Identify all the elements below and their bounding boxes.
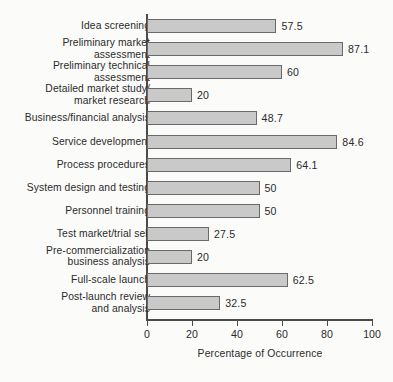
x-axis-title: Percentage of Occurrence [147,348,373,360]
bar-value-label: 60 [287,66,299,78]
bar-value-label: 48.7 [262,112,283,124]
bar-value-label: 50 [265,182,277,194]
x-axis-line [146,319,373,321]
chart-figure: Idea screening57.5Preliminary market ass… [0,0,393,382]
bar-value-label: 84.6 [342,136,363,148]
x-tick-label: 100 [363,328,381,340]
x-tick-mark [192,321,193,326]
category-label: Preliminary market assessment [4,37,150,60]
bar [147,135,337,149]
bar-value-label: 27.5 [214,228,235,240]
category-label: Process procedures [4,159,150,170]
category-label: Preliminary technical assessment [4,60,150,83]
bar-value-label: 32.5 [225,297,246,309]
bar-row: Business/financial analysis48.7 [0,111,393,125]
bar [147,88,192,102]
bar [147,296,220,310]
bar-value-label: 57.5 [281,20,302,32]
category-label: Full-scale launch [4,274,150,285]
bar [147,65,282,79]
category-label: Personnel training [4,205,150,216]
bar-row: Full-scale launch62.5 [0,273,393,287]
bar-row: Preliminary market assessment87.1 [0,42,393,56]
bar-row: System design and testing50 [0,181,393,195]
x-tick-mark [372,321,373,326]
x-tick-mark [147,321,148,326]
bar-row: Idea screening57.5 [0,19,393,33]
x-tick-label: 60 [276,328,288,340]
category-label: Idea screening [4,20,150,31]
chart-plot-area: Idea screening57.5Preliminary market ass… [0,0,393,382]
category-label: Pre-commercialization business analysis [4,245,150,268]
category-label: Detailed market study/ market research [4,83,150,106]
x-tick-mark [327,321,328,326]
bar-row: Process procedures64.1 [0,158,393,172]
bar-row: Preliminary technical assessment60 [0,65,393,79]
bar-value-label: 62.5 [293,274,314,286]
bar-value-label: 50 [265,205,277,217]
category-label: Business/financial analysis [4,112,150,123]
bar-row: Detailed market study/ market research20 [0,88,393,102]
bar [147,250,192,264]
bar-row: Personnel training50 [0,204,393,218]
x-tick-label: 80 [321,328,333,340]
x-tick-mark [237,321,238,326]
category-label: Test market/trial sell [4,228,150,239]
category-label: Service development [4,136,150,147]
bar-value-label: 20 [197,89,209,101]
x-tick-label: 0 [144,328,150,340]
x-tick-label: 20 [186,328,198,340]
bar [147,273,288,287]
bar [147,227,209,241]
x-tick-label: 40 [231,328,243,340]
bar-value-label: 64.1 [296,159,317,171]
bar [147,19,276,33]
bar [147,181,260,195]
x-tick-mark [282,321,283,326]
bar [147,204,260,218]
bar [147,111,257,125]
bar [147,42,343,56]
category-label: Post-launch review and analysis [4,291,150,314]
bar-row: Service development84.6 [0,135,393,149]
bar-row: Test market/trial sell27.5 [0,227,393,241]
bar-value-label: 87.1 [348,43,369,55]
bar-row: Post-launch review and analysis32.5 [0,296,393,310]
category-label: System design and testing [4,182,150,193]
bar-row: Pre-commercialization business analysis2… [0,250,393,264]
bar [147,158,291,172]
bar-value-label: 20 [197,251,209,263]
